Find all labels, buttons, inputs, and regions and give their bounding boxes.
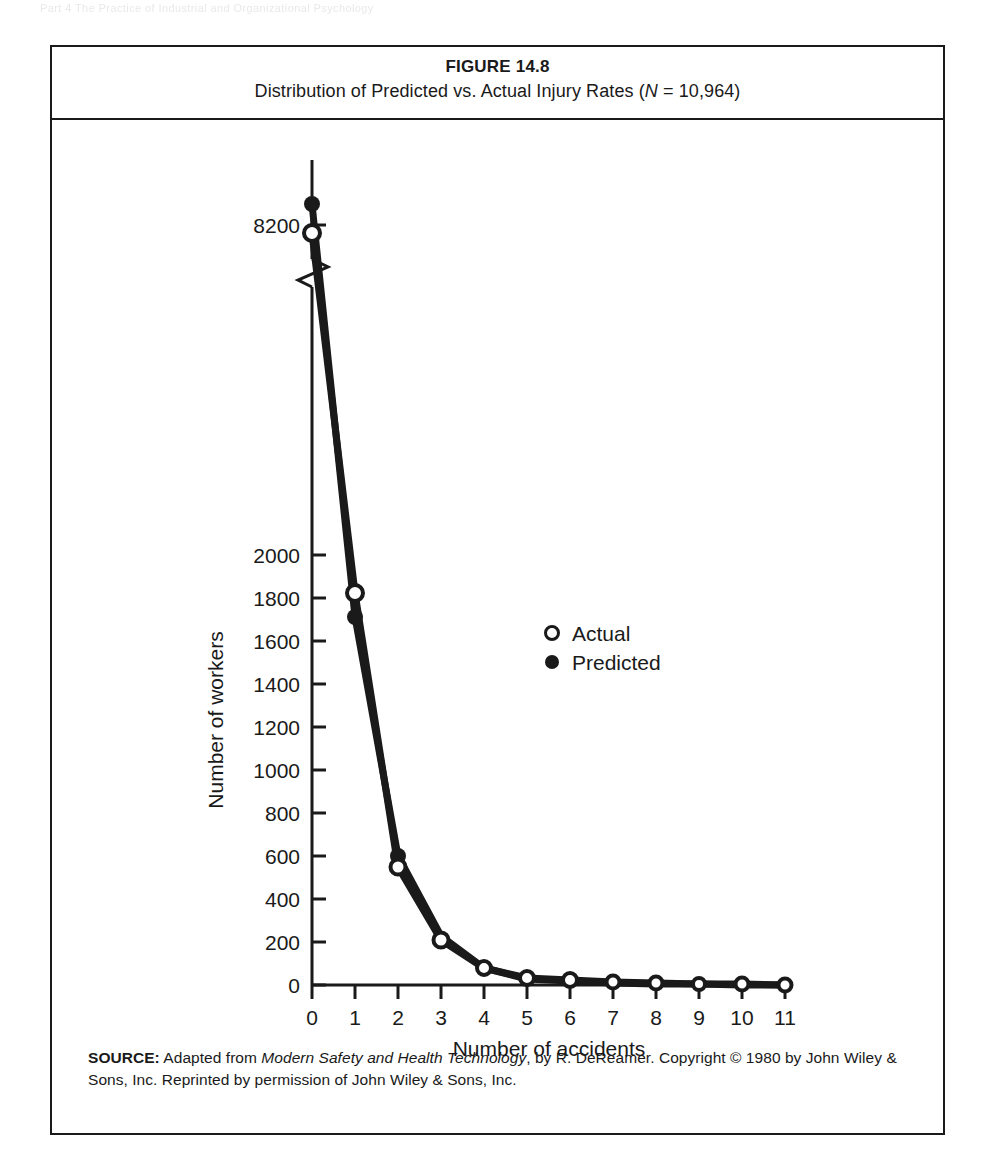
- chart-legend: Actual Predicted: [545, 622, 661, 674]
- legend-marker-filled-circle-icon: [545, 655, 559, 669]
- figure-box: FIGURE 14.8 Distribution of Predicted vs…: [50, 45, 945, 1135]
- chart-plot-region: 0 200 400 600 800 1000 1200 1400 1600 18…: [52, 120, 947, 1060]
- legend-label-predicted: Predicted: [572, 651, 661, 674]
- marker-actual-1: [347, 585, 363, 601]
- marker-actual-9: [693, 978, 705, 990]
- x-tick-label-2: 2: [392, 1006, 404, 1029]
- source-label: SOURCE:: [88, 1049, 160, 1066]
- x-tick-label-9: 9: [693, 1006, 705, 1029]
- y-tick-label-1000: 1000: [253, 759, 300, 782]
- figure-number: FIGURE 14.8: [52, 56, 943, 78]
- y-tick-label-1600: 1600: [253, 630, 300, 653]
- marker-actual-6: [563, 973, 577, 987]
- y-tick-label-1800: 1800: [253, 587, 300, 610]
- marker-actual-3: [434, 933, 449, 948]
- figure-subtitle-post: = 10,964): [658, 81, 741, 101]
- x-tick-label-11: 11: [774, 1006, 796, 1029]
- x-tick-label-5: 5: [521, 1006, 533, 1029]
- y-tick-label-2000: 2000: [253, 544, 300, 567]
- series-line-predicted: [312, 204, 785, 985]
- series-line-actual: [312, 233, 785, 985]
- legend-marker-open-circle-icon: [546, 627, 559, 640]
- figure-header: FIGURE 14.8 Distribution of Predicted vs…: [52, 47, 943, 120]
- marker-actual-11: [779, 979, 792, 992]
- marker-actual-8: [650, 977, 663, 990]
- x-tick-label-7: 7: [607, 1006, 619, 1029]
- figure-subtitle-pre: Distribution of Predicted vs. Actual Inj…: [255, 81, 645, 101]
- marker-actual-2: [391, 860, 406, 875]
- figure-subtitle: Distribution of Predicted vs. Actual Inj…: [52, 78, 943, 104]
- y-tick-label-8200: 8200: [253, 214, 300, 237]
- y-tick-label-1400: 1400: [253, 673, 300, 696]
- y-axis-tick-labels: 0 200 400 600 800 1000 1200 1400 1600 18…: [253, 214, 300, 997]
- source-text-pre: Adapted from: [160, 1049, 262, 1066]
- legend-label-actual: Actual: [572, 622, 630, 645]
- marker-actual-10: [736, 978, 749, 991]
- y-tick-label-1200: 1200: [253, 716, 300, 739]
- page-header-bleed: Part 4 The Practice of Industrial and Or…: [40, 2, 600, 14]
- x-tick-label-3: 3: [435, 1006, 447, 1029]
- source-note: SOURCE: Adapted from Modern Safety and H…: [88, 1047, 913, 1091]
- marker-actual-4: [477, 961, 491, 975]
- y-tick-label-800: 800: [265, 802, 300, 825]
- line-chart: 0 200 400 600 800 1000 1200 1400 1600 18…: [52, 120, 947, 1060]
- x-tick-label-4: 4: [478, 1006, 490, 1029]
- y-tick-label-400: 400: [265, 888, 300, 911]
- x-tick-label-6: 6: [564, 1006, 576, 1029]
- marker-actual-5: [520, 971, 534, 985]
- marker-predicted-1: [347, 609, 363, 625]
- x-axis-tick-labels: 0 1 2 3 4 5 6 7 8 9 10 11: [306, 1006, 796, 1029]
- source-title-italic: Modern Safety and Health Technology: [261, 1049, 526, 1066]
- x-tick-label-0: 0: [306, 1006, 318, 1029]
- x-tick-label-8: 8: [650, 1006, 662, 1029]
- marker-predicted-0: [304, 196, 320, 212]
- marker-actual-0: [304, 225, 320, 241]
- x-tick-label-1: 1: [349, 1006, 361, 1029]
- series-markers-actual: [304, 225, 792, 992]
- y-tick-label-0: 0: [288, 974, 300, 997]
- x-tick-label-10: 10: [730, 1006, 753, 1029]
- marker-actual-7: [607, 976, 620, 989]
- y-axis-title: Number of workers: [204, 631, 227, 808]
- y-tick-label-600: 600: [265, 845, 300, 868]
- y-tick-label-200: 200: [265, 931, 300, 954]
- figure-subtitle-italic: N: [645, 81, 658, 101]
